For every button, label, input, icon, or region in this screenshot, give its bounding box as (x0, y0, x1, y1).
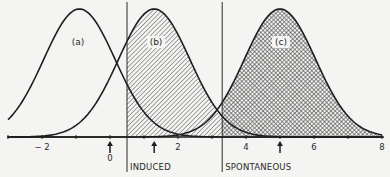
tick-label: 8 (379, 142, 384, 152)
threshold-label-induced: INDUCED (130, 162, 171, 172)
curve-c-shaded-area (222, 9, 382, 137)
curve-label-a: (a) (72, 37, 85, 47)
threshold-label-spontaneous: SPONTANEOUS (225, 162, 291, 172)
distribution-diagram: − 202468 INDUCEDSPONTANEOUS (a)(b)(c) (0, 0, 390, 177)
tick-label: 4 (243, 142, 248, 152)
tick-label: 2 (175, 142, 180, 152)
x-axis: − 202468 (7, 135, 385, 163)
up-arrow-icon (277, 141, 283, 153)
curve-label-b: (b) (150, 37, 163, 47)
curve-label-c: (c) (275, 37, 287, 47)
tick-label: − 2 (34, 142, 49, 152)
up-arrow-icon (107, 141, 113, 153)
tick-label: 0 (107, 153, 112, 163)
tick-label: 6 (311, 142, 316, 152)
up-arrow-icon (151, 141, 157, 153)
